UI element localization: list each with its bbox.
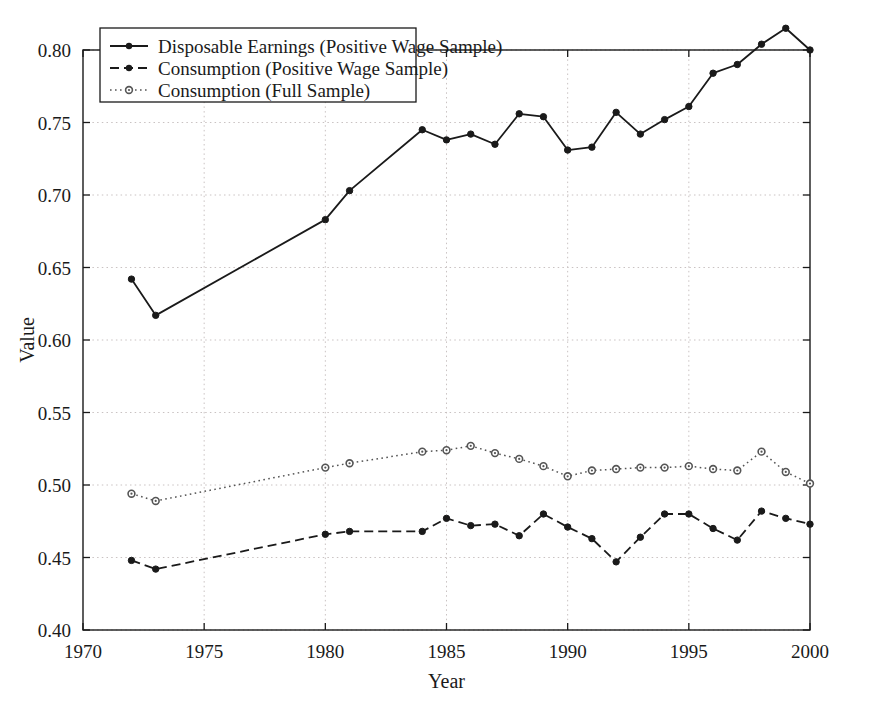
x-tick-label: 1970: [64, 641, 102, 662]
data-point: [637, 534, 643, 540]
data-point-center: [736, 469, 738, 471]
data-point: [686, 511, 692, 517]
legend-label-0: Disposable Earnings (Positive Wage Sampl…: [158, 36, 502, 58]
data-point: [589, 144, 595, 150]
legend-marker-1: [126, 65, 132, 71]
data-point: [443, 137, 449, 143]
data-point-center: [518, 458, 520, 460]
data-point: [540, 511, 546, 517]
data-point-center: [155, 500, 157, 502]
data-point: [492, 141, 498, 147]
x-axis-title: Year: [428, 670, 465, 692]
data-point-center: [324, 467, 326, 469]
data-point: [153, 312, 159, 318]
chart-background: [0, 0, 876, 727]
data-point-center: [542, 465, 544, 467]
y-tick-label: 0.80: [38, 40, 71, 61]
data-point: [758, 41, 764, 47]
x-tick-label: 1995: [670, 641, 708, 662]
data-point: [710, 70, 716, 76]
data-point: [346, 528, 352, 534]
y-tick-label: 0.55: [38, 403, 71, 424]
data-point: [758, 508, 764, 514]
data-point: [468, 522, 474, 528]
data-point: [613, 559, 619, 565]
data-point: [661, 511, 667, 517]
data-point: [516, 111, 522, 117]
x-tick-label: 1990: [549, 641, 587, 662]
data-point: [661, 116, 667, 122]
data-point-center: [470, 445, 472, 447]
y-axis-title: Value: [16, 317, 38, 363]
data-point-center: [445, 449, 447, 451]
data-point: [443, 515, 449, 521]
data-point: [807, 47, 813, 53]
data-point: [807, 521, 813, 527]
legend-marker-center-2: [128, 89, 130, 91]
data-point-center: [591, 469, 593, 471]
data-point-center: [421, 451, 423, 453]
data-point: [710, 525, 716, 531]
data-point: [322, 531, 328, 537]
data-point: [564, 147, 570, 153]
data-point: [637, 131, 643, 137]
x-tick-label: 1975: [185, 641, 223, 662]
data-point: [468, 131, 474, 137]
data-point: [734, 537, 740, 543]
data-point: [540, 114, 546, 120]
data-point-center: [639, 467, 641, 469]
data-point-center: [615, 468, 617, 470]
legend-label-1: Consumption (Positive Wage Sample): [158, 58, 448, 80]
data-point: [492, 521, 498, 527]
data-point-center: [664, 467, 666, 469]
data-point: [128, 276, 134, 282]
data-point: [346, 187, 352, 193]
data-point: [686, 103, 692, 109]
data-point: [783, 25, 789, 31]
data-point-center: [809, 482, 811, 484]
data-point-center: [494, 452, 496, 454]
data-point-center: [130, 493, 132, 495]
data-point: [734, 61, 740, 67]
data-point: [516, 533, 522, 539]
data-point: [564, 524, 570, 530]
data-point-center: [760, 451, 762, 453]
data-point-center: [567, 475, 569, 477]
data-point: [613, 109, 619, 115]
x-tick-label: 1985: [428, 641, 466, 662]
data-point: [419, 528, 425, 534]
data-point: [783, 515, 789, 521]
data-point: [322, 216, 328, 222]
data-point-center: [712, 468, 714, 470]
line-chart: 0.400.450.500.550.600.650.700.750.801970…: [0, 0, 876, 727]
data-point: [128, 557, 134, 563]
y-tick-label: 0.65: [38, 258, 71, 279]
y-tick-label: 0.60: [38, 330, 71, 351]
legend-marker-0: [126, 43, 132, 49]
data-point: [419, 127, 425, 133]
y-tick-label: 0.45: [38, 548, 71, 569]
y-tick-label: 0.70: [38, 185, 71, 206]
data-point: [153, 566, 159, 572]
data-point: [589, 535, 595, 541]
data-point-center: [348, 462, 350, 464]
legend-label-2: Consumption (Full Sample): [158, 80, 370, 102]
y-tick-label: 0.40: [38, 620, 71, 641]
chart-container: 0.400.450.500.550.600.650.700.750.801970…: [0, 0, 876, 727]
data-point-center: [688, 465, 690, 467]
x-tick-label: 2000: [791, 641, 829, 662]
data-point-center: [785, 471, 787, 473]
x-tick-label: 1980: [306, 641, 344, 662]
y-tick-label: 0.50: [38, 475, 71, 496]
y-tick-label: 0.75: [38, 113, 71, 134]
